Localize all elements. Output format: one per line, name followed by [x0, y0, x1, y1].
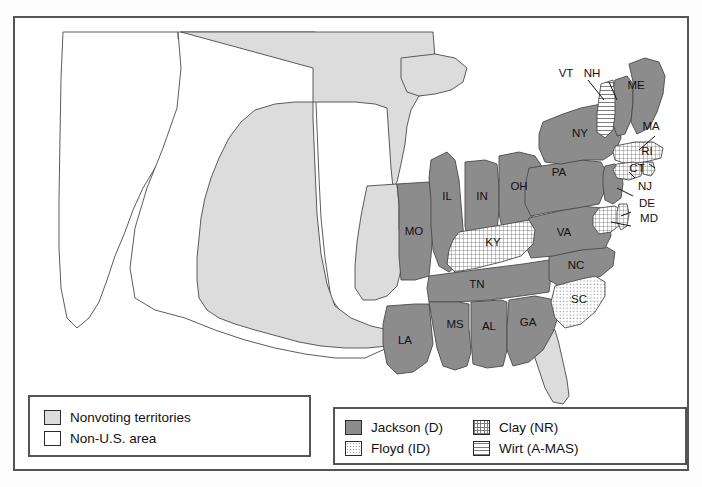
swatch-nonvoting-territories	[44, 410, 61, 425]
label-NC: NC	[568, 259, 585, 271]
label-SC: SC	[571, 293, 587, 305]
label-PA: PA	[552, 166, 567, 178]
label-LA: LA	[398, 334, 412, 346]
label-VA: VA	[557, 226, 572, 238]
label-NY: NY	[572, 127, 588, 139]
label-AL: AL	[482, 320, 497, 332]
label-CT: CT	[629, 162, 644, 174]
swatch-non-us-area	[44, 431, 61, 446]
legend-item: Nonvoting territories	[44, 407, 309, 428]
legend-label: Jackson (D)	[371, 420, 443, 435]
state-AL	[471, 300, 507, 368]
label-IN: IN	[476, 190, 488, 202]
legend-label: Floyd (ID)	[371, 441, 430, 456]
swatch-wirt	[473, 441, 490, 456]
legend-label: Clay (NR)	[499, 420, 558, 435]
state-MA	[613, 142, 663, 164]
label-ME: ME	[627, 79, 645, 91]
state-MS	[429, 302, 471, 370]
swatch-clay	[473, 420, 490, 435]
label-MO: MO	[405, 225, 424, 237]
label-DE: DE	[639, 197, 655, 209]
legend-item: Jackson (D)	[345, 417, 443, 438]
legend-candidates: Jackson (D) Floyd (ID) Clay (NR) Wirt (A…	[333, 407, 687, 465]
label-OH: OH	[510, 180, 527, 192]
label-IL: IL	[442, 190, 452, 202]
label-NH: NH	[584, 67, 601, 79]
label-TN: TN	[469, 278, 484, 290]
label-MS: MS	[446, 318, 464, 330]
label-NJ: NJ	[638, 180, 652, 192]
election-map-figure: 1832	[0, 0, 702, 487]
legend-item: Clay (NR)	[473, 417, 578, 438]
legend-item: Floyd (ID)	[345, 438, 443, 459]
legend-territories: Nonvoting territories Non-U.S. area	[28, 395, 311, 457]
label-VT: VT	[559, 67, 574, 79]
label-MA: MA	[642, 120, 660, 132]
label-RI: RI	[641, 145, 653, 157]
legend-label: Wirt (A-MAS)	[499, 441, 578, 456]
label-MD: MD	[640, 212, 658, 224]
state-DE	[617, 204, 629, 230]
label-KY: KY	[485, 236, 501, 248]
swatch-jackson	[345, 420, 362, 435]
swatch-floyd	[345, 441, 362, 456]
region-territory-arkansas	[355, 184, 401, 300]
legend-label: Nonvoting territories	[70, 410, 191, 425]
legend-item: Wirt (A-MAS)	[473, 438, 578, 459]
legend-item: Non-U.S. area	[44, 428, 309, 449]
legend-label: Non-U.S. area	[70, 431, 156, 446]
label-GA: GA	[520, 316, 537, 328]
region-territory-michigan	[401, 54, 467, 96]
